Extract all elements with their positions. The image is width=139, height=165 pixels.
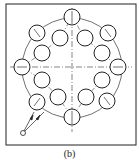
start-point — [21, 131, 26, 136]
bolt-hole-pattern-diagram — [0, 0, 139, 165]
approach-arrows — [24, 112, 44, 131]
figure-caption: (b) — [0, 148, 139, 159]
